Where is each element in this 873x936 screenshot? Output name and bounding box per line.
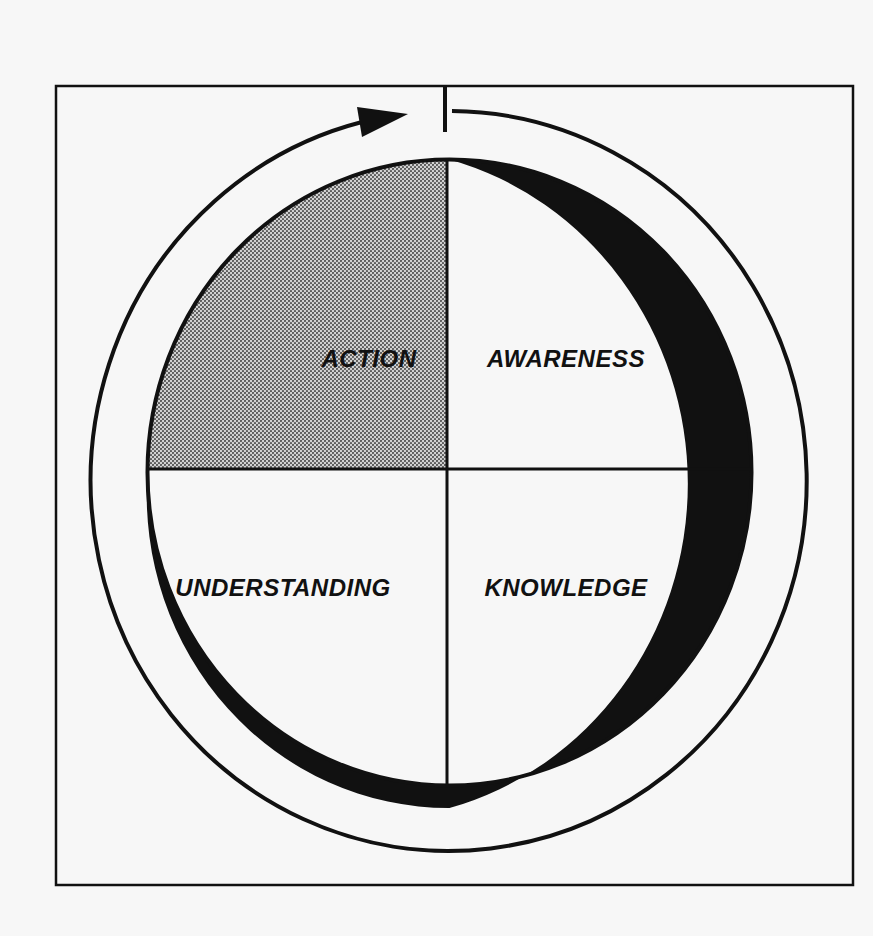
label-awareness: AWARENESS: [486, 345, 645, 372]
arrowhead-icon: [357, 107, 408, 137]
label-knowledge: KNOWLEDGE: [484, 574, 648, 601]
cycle-diagram: ACTION AWARENESS UNDERSTANDING KNOWLEDGE: [0, 0, 873, 936]
action-quadrant-shade: [140, 150, 448, 470]
label-action: ACTION: [321, 345, 417, 372]
label-understanding: UNDERSTANDING: [175, 574, 390, 601]
